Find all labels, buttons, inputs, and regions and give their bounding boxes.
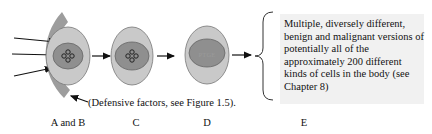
label-a-b: A and B	[51, 117, 85, 128]
label-d: D	[203, 117, 211, 128]
cell-c	[111, 27, 153, 85]
carcinogen-arrow-3	[14, 68, 52, 76]
caption-arrow	[71, 96, 88, 102]
cell-a-b	[46, 27, 90, 85]
curly-brace	[255, 12, 273, 100]
label-e: E	[301, 117, 307, 128]
label-c: C	[132, 117, 139, 128]
nucleus-label-d: PTGE	[198, 51, 215, 58]
stage-e-description: Multiple, diversely different, benign an…	[284, 18, 424, 94]
defensive-factors-caption: (Defensive factors, see Figure 1.5).	[88, 97, 236, 108]
